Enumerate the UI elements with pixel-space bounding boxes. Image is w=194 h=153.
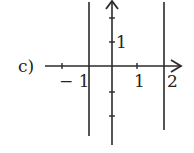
part-label: c) <box>18 58 34 75</box>
y-tick-label-1: 1 <box>116 34 127 51</box>
diagram: c) − 1 1 2 1 <box>0 0 194 153</box>
x-tick-label-2: 2 <box>167 73 178 90</box>
coordinate-plane <box>0 0 194 153</box>
x-tick-label-neg1: − 1 <box>59 73 89 90</box>
x-tick-label-1: 1 <box>134 73 145 90</box>
